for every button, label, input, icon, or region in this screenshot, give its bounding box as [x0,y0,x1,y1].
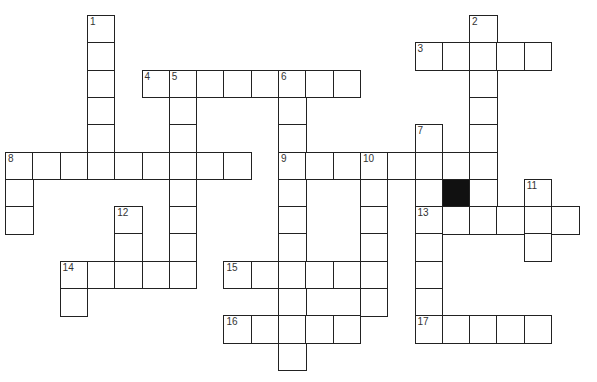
crossword-cell[interactable] [251,261,280,290]
crossword-cell[interactable] [5,206,34,235]
crossword-cell[interactable] [305,152,334,181]
crossword-cell[interactable] [87,152,116,181]
crossword-cell[interactable] [415,152,444,181]
crossword-cell[interactable] [442,315,471,344]
crossword-cell[interactable] [278,261,307,290]
crossword-cell[interactable] [415,179,444,208]
clue-number: 12 [117,207,128,218]
crossword-cell[interactable] [496,315,525,344]
crossword-cell[interactable] [278,315,307,344]
crossword-cell[interactable] [524,315,553,344]
crossword-cell[interactable] [333,70,362,99]
crossword-cell[interactable] [333,261,362,290]
crossword-cell[interactable] [278,97,307,126]
crossword-cell[interactable] [442,42,471,71]
clue-number: 11 [527,180,537,191]
crossword-cell[interactable] [387,152,416,181]
crossword-cell[interactable]: 11 [524,179,553,208]
crossword-cell[interactable] [169,233,198,262]
crossword-cell[interactable] [278,343,307,372]
crossword-cell[interactable] [360,206,389,235]
crossword-cell[interactable] [305,70,334,99]
crossword-cell[interactable] [87,42,116,71]
crossword-cell[interactable] [469,179,498,208]
crossword-cell[interactable] [169,124,198,153]
crossword-cell[interactable] [60,288,89,317]
crossword-cell[interactable]: 7 [415,124,444,153]
crossword-cell[interactable] [87,70,116,99]
crossword-cell[interactable]: 12 [114,206,143,235]
crossword-cell[interactable] [305,315,334,344]
crossword-cell[interactable]: 6 [278,70,307,99]
crossword-cell[interactable] [5,179,34,208]
crossword-cell[interactable] [496,42,525,71]
crossword-cell[interactable] [114,152,143,181]
clue-number: 17 [418,316,429,327]
crossword-cell[interactable] [142,261,171,290]
crossword-cell[interactable] [223,70,252,99]
crossword-cell[interactable] [360,179,389,208]
crossword-cell[interactable] [442,206,471,235]
crossword-cell[interactable] [333,315,362,344]
crossword-cell[interactable] [87,124,116,153]
crossword-cell[interactable] [60,152,89,181]
crossword-cell[interactable] [305,261,334,290]
crossword-cell[interactable] [32,152,61,181]
crossword-cell[interactable] [415,261,444,290]
clue-number: 10 [363,153,374,164]
crossword-cell[interactable] [524,206,553,235]
crossword-cell[interactable]: 13 [415,206,444,235]
crossword-cell[interactable] [278,179,307,208]
crossword-cell[interactable] [469,152,498,181]
crossword-cell[interactable] [251,70,280,99]
crossword-cell[interactable] [415,233,444,262]
crossword-cell[interactable] [278,124,307,153]
crossword-cell[interactable] [469,206,498,235]
crossword-cell[interactable]: 17 [415,315,444,344]
crossword-cell[interactable] [469,315,498,344]
crossword-cell[interactable] [251,315,280,344]
crossword-cell[interactable]: 10 [360,152,389,181]
crossword-cell[interactable] [524,42,553,71]
crossword-cell[interactable] [87,97,116,126]
crossword-cell[interactable] [360,288,389,317]
crossword-cell[interactable] [196,70,225,99]
crossword-cell[interactable]: 16 [223,315,252,344]
crossword-cell[interactable] [223,152,252,181]
crossword-cell[interactable]: 2 [469,15,498,44]
crossword-cell[interactable]: 3 [415,42,444,71]
crossword-cell[interactable]: 14 [60,261,89,290]
crossword-cell[interactable] [360,233,389,262]
crossword-cell[interactable]: 1 [87,15,116,44]
crossword-cell[interactable]: 8 [5,152,34,181]
crossword-cell[interactable]: 5 [169,70,198,99]
crossword-cell[interactable] [469,97,498,126]
crossword-cell[interactable] [196,152,225,181]
crossword-cell[interactable] [469,42,498,71]
crossword-cell[interactable] [551,206,580,235]
crossword-cell[interactable]: 9 [278,152,307,181]
crossword-cell[interactable] [496,206,525,235]
crossword-cell[interactable] [469,70,498,99]
crossword-cell[interactable] [169,261,198,290]
crossword-cell[interactable] [278,206,307,235]
crossword-cell[interactable] [87,261,116,290]
crossword-cell[interactable] [524,233,553,262]
crossword-cell[interactable] [114,233,143,262]
crossword-cell[interactable] [360,261,389,290]
crossword-cell[interactable] [278,233,307,262]
crossword-cell[interactable] [169,97,198,126]
crossword-cell[interactable]: 4 [142,70,171,99]
crossword-cell[interactable]: 15 [223,261,252,290]
crossword-cell[interactable] [142,152,171,181]
crossword-cell[interactable] [469,124,498,153]
crossword-cell[interactable] [169,179,198,208]
crossword-cell[interactable] [333,152,362,181]
crossword-cell[interactable] [278,288,307,317]
crossword-cell[interactable] [442,152,471,181]
crossword-cell[interactable] [169,206,198,235]
crossword-cell[interactable] [114,261,143,290]
crossword-cell[interactable] [169,152,198,181]
crossword-cell[interactable] [415,288,444,317]
clue-number: 8 [8,153,14,164]
